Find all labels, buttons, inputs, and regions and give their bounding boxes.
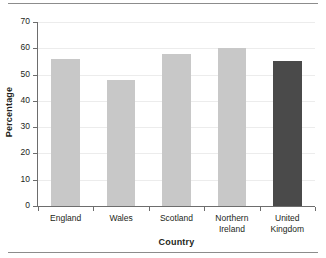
bar-chart-figure: 010203040506070 EnglandWalesScotlandNort… [0,0,326,258]
y-axis-tick-mark [33,153,37,154]
y-axis-tick-label: 30 [21,122,30,131]
x-axis-tick-label: Wales [93,213,148,224]
x-axis-tick-label: NorthernIreland [204,213,259,234]
gridline [38,48,315,49]
y-axis-tick-label: 40 [21,96,30,105]
x-axis-tick-mark [260,207,261,211]
x-axis-tick-mark [204,207,205,211]
bar [107,80,136,206]
y-axis-tick-mark [33,75,37,76]
x-axis-tick-mark [93,207,94,211]
bottom-divider-rule [8,252,318,253]
y-axis-tick-mark [33,22,37,23]
bar [273,61,302,206]
y-axis-tick-mark [33,101,37,102]
y-axis-tick-mark [33,127,37,128]
x-axis-tick-label: England [38,213,93,224]
y-axis-title: Percentage [4,72,14,152]
x-axis-title: Country [38,237,315,247]
y-axis-tick-mark [33,180,37,181]
x-axis-tick-label: Scotland [149,213,204,224]
x-axis-tick-label: UnitedKingdom [260,213,315,234]
x-axis-tick-mark [149,207,150,211]
y-axis-tick-label: 50 [21,70,30,79]
bar [51,59,80,206]
y-axis-tick-label: 10 [21,175,30,184]
bar [162,54,191,207]
y-axis-tick-label: 0 [25,201,30,210]
y-axis-tick-label: 70 [21,17,30,26]
y-axis-tick-mark [33,48,37,49]
plot-area [38,22,315,206]
y-axis-tick-label: 20 [21,148,30,157]
top-divider-rule [8,3,318,4]
x-axis-tick-mark [38,207,39,211]
y-axis-tick-label: 60 [21,43,30,52]
y-axis-tick-mark [33,206,37,207]
bar [218,48,247,206]
x-axis-line [37,206,315,207]
gridline [38,22,315,23]
x-axis-tick-mark [315,207,316,211]
